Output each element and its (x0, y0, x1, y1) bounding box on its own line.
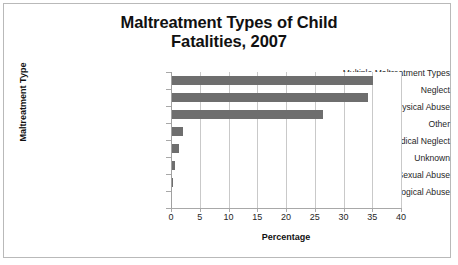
y-axis-line (171, 72, 172, 208)
bar-row (172, 123, 183, 140)
chart-container: Maltreatment Types of Child Fatalities, … (3, 3, 451, 258)
x-axis-tick-label: 35 (358, 212, 386, 222)
x-axis-tick-label: 30 (330, 212, 358, 222)
bar-row (172, 174, 173, 191)
plot-area (171, 72, 401, 208)
bar-row (172, 72, 373, 89)
bar (172, 144, 179, 153)
gridline (401, 72, 402, 208)
x-axis-tick-label: 0 (157, 212, 185, 222)
gridline (372, 72, 373, 208)
bar (172, 76, 373, 85)
bar (172, 110, 323, 119)
bar (172, 178, 173, 187)
bar (172, 93, 368, 102)
chart-title-line-1: Maltreatment Types of Child (44, 13, 414, 32)
x-axis-title: Percentage (171, 232, 401, 242)
x-axis-tick-label: 20 (272, 212, 300, 222)
chart-title: Maltreatment Types of Child Fatalities, … (44, 13, 414, 51)
x-axis-tick-label: 10 (215, 212, 243, 222)
x-axis-tick-label: 15 (243, 212, 271, 222)
x-axis-tick-label: 25 (301, 212, 329, 222)
x-axis-tick-label: 40 (387, 212, 415, 222)
bar-row (172, 140, 179, 157)
x-axis-tick-label: 5 (186, 212, 214, 222)
bar-row (172, 89, 368, 106)
bar-row (172, 157, 175, 174)
bar-row (172, 106, 323, 123)
bar (172, 127, 183, 136)
bar (172, 161, 175, 170)
y-axis-title: Maltreatment Type (18, 47, 28, 157)
chart-title-line-2: Fatalities, 2007 (44, 32, 414, 51)
